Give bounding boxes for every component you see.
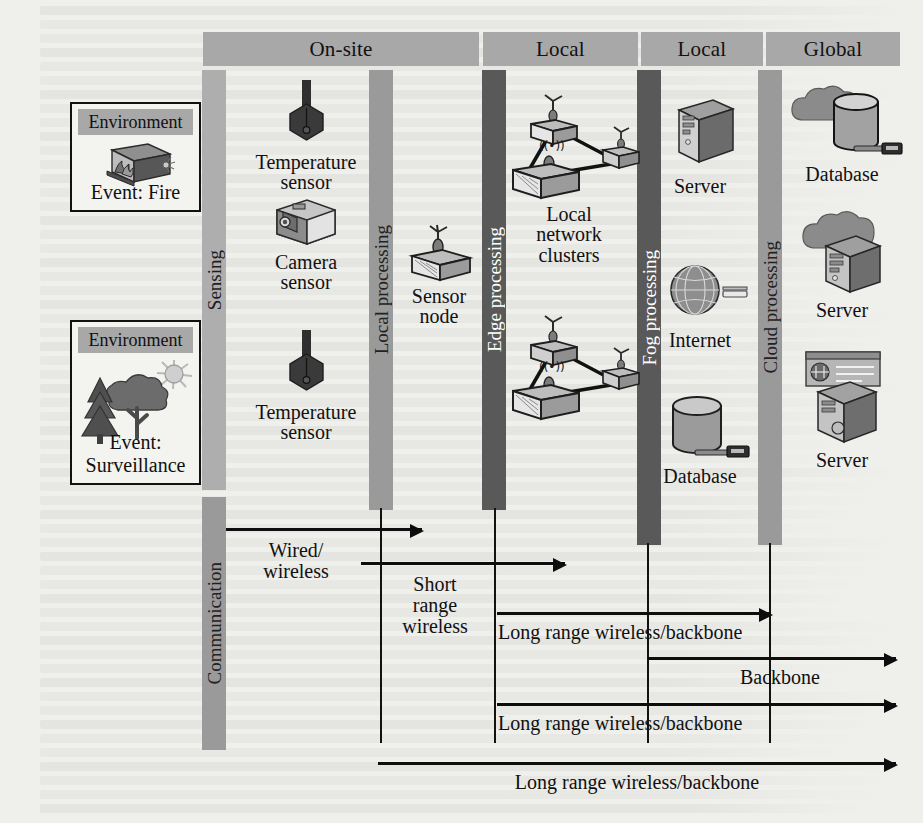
thermometer-icon <box>276 78 336 150</box>
tier-header-label: On-site <box>309 37 372 62</box>
svg-text:((•)): ((•)) <box>539 139 565 153</box>
band-label: Cloud processing <box>761 241 780 373</box>
tier-header-label: Global <box>804 37 862 62</box>
tier-header-local-fog: Local <box>641 32 763 66</box>
globe-grid-icon <box>655 262 751 328</box>
label-long-range-1: Long range wireless/backbone <box>470 622 828 643</box>
node-caption: Localnetworkclusters <box>503 204 635 265</box>
node-caption: Server <box>655 176 745 196</box>
thermometer-icon <box>276 328 336 400</box>
band-communication: Communication <box>202 497 226 750</box>
tier-header-global: Global <box>766 32 900 66</box>
band-label: Local processing <box>372 225 391 354</box>
camera-icon <box>263 192 349 250</box>
node-camera-sensor: Camerasensor <box>246 192 366 293</box>
fire-building-icon <box>72 138 199 180</box>
band-label: Sensing <box>205 250 224 310</box>
server-tower-icon <box>657 92 743 174</box>
node-local-network-clusters: ((•)) Localnetworkclusters <box>503 84 635 265</box>
node-caption: Database <box>655 466 745 486</box>
arrow-long-range-2 <box>497 703 896 706</box>
cloud-server-icon <box>782 212 906 298</box>
environment-header-label: Environment <box>89 330 183 351</box>
sensor-node-icon <box>398 222 484 284</box>
node-sensor-node: Sensornode <box>398 222 480 327</box>
cloud-database-icon <box>782 82 906 162</box>
network-cluster-icon: ((•)) <box>503 305 643 423</box>
environment-box-fire: Environment Event: Fire <box>70 102 201 212</box>
environment-header-label: Environment <box>89 112 183 133</box>
label-long-range-3: Long range wireless/backbone <box>378 772 896 793</box>
node-caption: Server <box>782 450 902 470</box>
arrow-wired-wireless <box>226 528 422 531</box>
node-cloud-server-2: Server <box>782 348 902 470</box>
environment-caption: Event: Fire <box>72 181 199 204</box>
node-caption: Server <box>782 300 902 320</box>
node-cloud-database: Database <box>782 82 902 184</box>
tier-header-local-edge: Local <box>483 32 638 66</box>
environment-header: Environment <box>78 109 193 135</box>
band-label: Communication <box>205 562 224 684</box>
label-wired-wireless: Wired/wireless <box>236 540 356 582</box>
node-caption: Sensornode <box>398 286 480 327</box>
node-fog-server: Server <box>655 92 745 196</box>
node-temperature-sensor-2: Temperaturesensor <box>246 328 366 443</box>
environment-caption: Event: Surveillance <box>72 431 199 477</box>
tier-header-label: Local <box>678 37 727 62</box>
arrow-short-range-wireless <box>361 562 565 565</box>
network-cluster-icon: ((•)) <box>503 84 643 202</box>
node-temperature-sensor-1: Temperaturesensor <box>246 78 366 193</box>
node-local-network-clusters-lower: ((•)) <box>503 305 635 423</box>
node-fog-database: Database <box>655 392 745 486</box>
arrow-long-range-3 <box>378 762 896 765</box>
node-caption: Database <box>782 164 902 184</box>
node-caption: Internet <box>655 330 745 350</box>
node-caption: Temperaturesensor <box>246 402 366 443</box>
tier-header-label: Local <box>536 37 585 62</box>
band-label: Edge processing <box>485 227 504 352</box>
monitor-server-icon <box>782 348 906 448</box>
arrow-long-range-1 <box>497 612 771 615</box>
tier-header-on-site: On-site <box>203 32 479 66</box>
node-caption: Temperaturesensor <box>246 152 366 193</box>
environment-header: Environment <box>78 327 193 353</box>
label-backbone: Backbone <box>690 667 870 688</box>
label-long-range-2: Long range wireless/backbone <box>470 713 828 734</box>
node-caption: Camerasensor <box>246 252 366 293</box>
environment-box-surveillance: Environment Eve <box>70 320 201 485</box>
node-cloud-server-1: Server <box>782 212 902 320</box>
svg-text:((•)): ((•)) <box>539 360 565 374</box>
band-local-processing: Local processing <box>369 70 393 510</box>
band-sensing: Sensing <box>202 70 226 490</box>
arrow-backbone <box>648 657 896 660</box>
database-cylinder-icon <box>655 392 755 464</box>
node-internet: Internet <box>655 262 745 350</box>
figure-diagram: On-site Local Local Global Sensing Local… <box>0 0 923 823</box>
band-cloud-processing: Cloud processing <box>758 70 782 545</box>
